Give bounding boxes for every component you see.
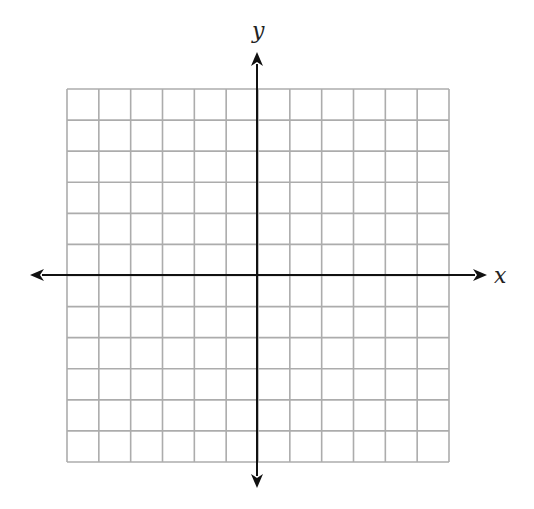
y-axis-down-arrow-icon [251, 474, 263, 488]
y-axis-up-arrow-icon [251, 52, 263, 66]
x-axis-left-arrow-icon [30, 269, 44, 281]
x-axis-label: x [494, 263, 507, 288]
x-axis-right-arrow-icon [473, 269, 487, 281]
y-axis-label: y [251, 18, 265, 43]
coordinate-plane: x y [0, 0, 534, 509]
